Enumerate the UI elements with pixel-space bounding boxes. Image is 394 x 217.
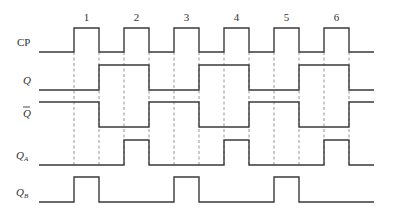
signal-label-q-bar: Q (23, 107, 31, 119)
waveform-qb (39, 177, 374, 202)
waveform-cp (39, 28, 374, 52)
clock-pulse-numbers: 123456 (84, 11, 340, 23)
clock-number: 6 (334, 11, 340, 23)
signal-label-cp: CP (17, 36, 30, 48)
timing-diagram: 123456 CPQQQAQB (0, 0, 394, 217)
clock-number: 2 (134, 11, 140, 23)
clock-number: 1 (84, 11, 90, 23)
signal-label-qa: QA (16, 149, 29, 163)
clock-number: 5 (284, 11, 290, 23)
signal-label-qb: QB (16, 186, 29, 200)
waveform-qa (39, 140, 374, 165)
dashed-guide-lines (74, 52, 349, 165)
signal-label-q: Q (23, 74, 31, 86)
clock-number: 4 (234, 11, 240, 23)
signal-labels: CPQQQAQB (16, 36, 31, 200)
clock-number: 3 (184, 11, 190, 23)
